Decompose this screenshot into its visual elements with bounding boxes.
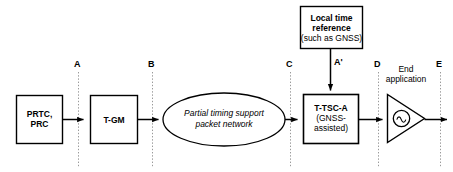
node-label-packet-network: Partial timing support packet network: [164, 108, 284, 130]
node-label-local-time-reference-line1: Local time: [300, 13, 363, 23]
reference-label-b: B: [148, 60, 155, 69]
node-label-t-tsc-a-line1: T-TSC-A: [303, 103, 359, 113]
node-label-t-gm: T-GM: [90, 115, 138, 125]
node-label-t-tsc-a-line3: assisted): [303, 123, 359, 133]
node-label-t-tsc-a-line2: (GNSS-: [303, 113, 359, 123]
node-label-t-gm-line1: T-GM: [90, 115, 138, 125]
node-label-packet-network-line2: packet network: [195, 119, 252, 129]
node-label-t-tsc-a: T-TSC-A (GNSS- assisted): [303, 103, 359, 133]
node-label-end-application-line1: End: [398, 64, 413, 74]
oscillator-icon: [393, 110, 409, 126]
reference-label-c: C: [286, 60, 293, 69]
node-label-prtc-prc-line2: PRC: [16, 119, 63, 129]
node-label-local-time-reference: Local time reference (such as GNSS): [300, 13, 363, 43]
node-label-prtc-prc-line1: PRTC,: [16, 109, 63, 119]
reference-label-e: E: [436, 60, 442, 69]
node-label-end-application-line2: application: [386, 74, 427, 84]
node-label-packet-network-line1: Partial timing support: [184, 108, 264, 118]
reference-label-a-prime: A': [334, 58, 343, 67]
node-label-local-time-reference-line3: (such as GNSS): [300, 33, 363, 43]
timing-network-diagram: A B C A' D E PRTC, PRC T-GM Partial timi…: [0, 0, 453, 172]
node-label-local-time-reference-line2: reference: [300, 23, 363, 33]
diagram-canvas: [0, 0, 453, 172]
reference-label-a: A: [74, 60, 81, 69]
node-label-end-application: End application: [380, 64, 432, 84]
node-label-prtc-prc: PRTC, PRC: [16, 109, 63, 129]
